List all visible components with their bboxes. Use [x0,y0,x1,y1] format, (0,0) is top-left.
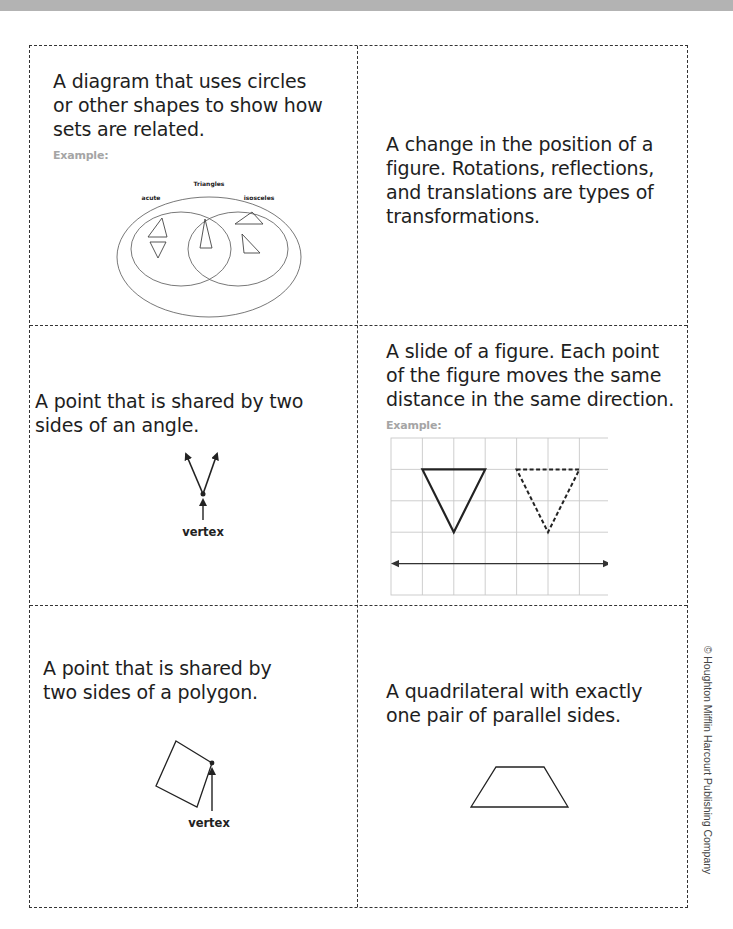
card-trapezoid: A quadrilateral with exactly one pair of… [358,606,689,909]
double-arrow-line [391,560,608,567]
definition-text: A change in the position of a figure. Ro… [386,132,686,228]
definition-line: A quadrilateral with exactly [386,679,686,703]
definition-text: A point that is shared by two sides of a… [43,656,353,704]
vertex-point [210,761,215,766]
top-gray-bar [0,0,733,11]
angle-ray-left [186,454,203,494]
trapezoid-shape [471,767,568,807]
definition-line: one pair of parallel sides. [386,703,686,727]
definition-line: A slide of a figure. Each point [386,339,686,363]
venn-right-label: isosceles [244,194,275,201]
quadrilateral-shape [156,741,212,807]
definition-line: sides of an angle. [35,413,355,437]
definition-line: and translations are types of [386,180,686,204]
definition-line: of the figure moves the same [386,363,686,387]
definition-line: transformations. [386,204,686,228]
vocabulary-card-grid: A diagram that uses circles or other sha… [29,45,688,908]
polygon-vertex-figure: vertex [150,731,260,846]
definition-line: distance in the same direction. [386,387,686,411]
grid-lines [391,438,608,595]
angle-vertex-figure: vertex [170,446,250,551]
card-translation: A slide of a figure. Each point of the f… [358,326,689,605]
definition-text: A slide of a figure. Each point of the f… [386,339,686,438]
definition-text: A point that is shared by two sides of a… [35,389,355,437]
vertex-label: vertex [188,816,230,830]
definition-line: two sides of a polygon. [43,680,353,704]
definition-line: A point that is shared by [43,656,353,680]
card-venn-diagram: A diagram that uses circles or other sha… [30,46,357,325]
venn-diagram-figure: Triangles acute isosceles [115,174,305,319]
definition-line: A diagram that uses circles [53,69,353,93]
vertex-point [201,492,206,497]
card-vertex-polygon: A point that is shared by two sides of a… [30,606,357,909]
definition-line: A change in the position of a [386,132,686,156]
angle-ray-right [203,454,217,494]
definition-line: sets are related. [53,117,353,141]
example-label: Example: [53,144,353,168]
definition-line: or other shapes to show how [53,93,353,117]
card-vertex-angle: A point that is shared by two sides of a… [30,326,357,605]
definition-line: A point that is shared by two [35,389,355,413]
translation-grid-figure [383,436,608,601]
copyright-notice: © Houghton Mifflin Harcourt Publishing C… [702,646,714,875]
definition-text: A diagram that uses circles or other sha… [53,69,353,168]
definition-line: figure. Rotations, reflections, [386,156,686,180]
example-label: Example: [386,414,686,438]
venn-outer-label: Triangles [194,180,225,188]
trapezoid-figure [463,761,573,816]
card-transformation: A change in the position of a figure. Ro… [358,46,689,325]
venn-left-label: acute [142,194,161,201]
definition-text: A quadrilateral with exactly one pair of… [386,679,686,727]
vertex-label: vertex [182,525,224,539]
